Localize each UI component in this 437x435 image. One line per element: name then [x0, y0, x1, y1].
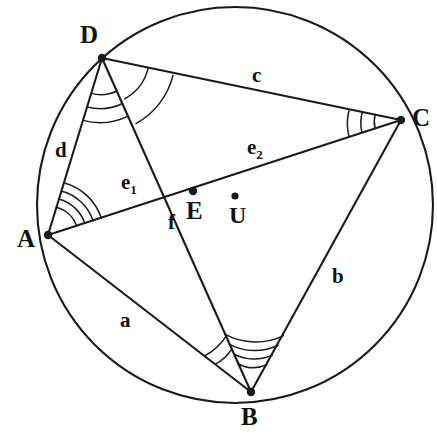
angle-arc-D-ADB-3: [83, 116, 128, 122]
angle-arc-group-D-BDC: [124, 68, 173, 124]
geometry-diagram: [0, 0, 437, 435]
angle-arc-B-DBC-1: [238, 364, 268, 368]
point-marker-U: [231, 192, 238, 199]
angle-arc-B-DBC-2: [233, 354, 273, 359]
segment-a-AB: [48, 235, 251, 392]
point-label-U: U: [229, 203, 246, 227]
point-label-E: E: [186, 198, 203, 223]
segment-label-b: b: [332, 266, 344, 287]
segment-label-a: a: [120, 310, 131, 331]
angle-arc-D-ADB-2: [87, 104, 122, 109]
point-label-C: C: [412, 105, 430, 130]
segment-label-e2-base: e: [247, 135, 256, 159]
angle-arc-B-ABD-2: [204, 336, 226, 356]
segment-label-e2: e2: [247, 137, 263, 161]
point-marker-C: [397, 116, 405, 124]
angle-arc-B-DBC-4: [224, 334, 284, 342]
point-label-B: B: [241, 404, 258, 429]
segment-label-c: c: [252, 65, 261, 86]
angle-arc-B-ABD-1: [215, 349, 232, 365]
point-marker-B: [247, 388, 255, 396]
angle-arc-D-BDC-2: [136, 75, 174, 124]
point-marker-A: [44, 231, 52, 239]
angle-arc-C-2: [361, 112, 362, 133]
point-label-A: A: [17, 226, 35, 251]
segment-label-d: d: [55, 140, 67, 161]
angle-arc-D-ADB-1: [91, 91, 117, 95]
segment-label-e2-sub: 2: [256, 147, 263, 162]
point-marker-E: [189, 187, 197, 195]
point-label-D: D: [80, 22, 98, 47]
segment-label-e1-base: e: [121, 170, 130, 194]
segment-label-e1-sub: 1: [130, 182, 137, 197]
point-marker-D: [98, 54, 106, 62]
segment-label-e1: e1: [121, 172, 137, 196]
angle-arc-D-BDC-1: [124, 68, 148, 99]
angle-arc-C-3: [347, 109, 349, 137]
segment-label-f: f: [168, 212, 175, 233]
angle-arc-A-4: [64, 183, 102, 219]
angle-arc-B-DBC-3: [229, 344, 279, 351]
angle-arc-C-1: [374, 115, 375, 129]
angle-arc-A-3: [61, 191, 93, 222]
angle-arc-A-1: [56, 207, 76, 226]
